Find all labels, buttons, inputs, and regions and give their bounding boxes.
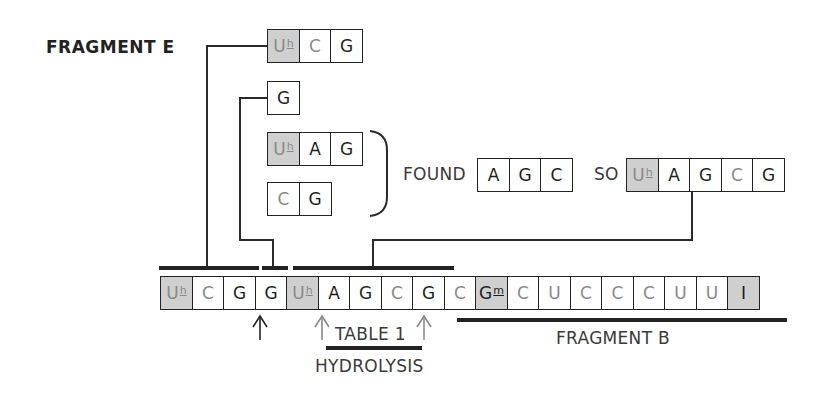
nucleotide-modification: h (287, 37, 294, 50)
nucleotide-cell: A (477, 158, 510, 192)
main-sequence: UhCGGUhAGCGCGmCUCCCUUI (160, 276, 760, 310)
fragment-e-sequence: UhCG (267, 29, 363, 63)
nucleotide-cell: I (727, 276, 760, 310)
nucleotide-cell: G (267, 81, 300, 115)
connector-lines (0, 0, 836, 394)
nucleotide-cell: C (721, 158, 754, 192)
nucleotide-cell: U (538, 276, 571, 310)
table-1-bar (326, 346, 422, 350)
nucleotide-cell: A (299, 132, 332, 166)
nucleotide-cell: G (330, 132, 363, 166)
fragment-b-label: FRAGMENT B (556, 328, 670, 348)
nucleotide-base: G (518, 165, 531, 185)
nucleotide-modification: h (646, 166, 653, 179)
nucleotide-cell: Uh (267, 132, 300, 166)
found-label: FOUND (403, 164, 466, 184)
nucleotide-base: C (454, 283, 466, 303)
nucleotide-cell: C (192, 276, 225, 310)
nucleotide-cell: Uh (267, 29, 300, 63)
nucleotide-base: U (273, 139, 285, 159)
rna-sequence-diagram: FRAGMENT E UhCG G UhAG CG FOUND AGC SO U… (0, 0, 836, 394)
cg-fragment-sequence: CG (267, 182, 332, 216)
table-1-label: TABLE 1 (335, 324, 406, 344)
nucleotide-cell: G (412, 276, 445, 310)
nucleotide-base: U (632, 165, 644, 185)
hydrolysis-label: HYDROLYSIS (315, 356, 424, 376)
nucleotide-cell: C (299, 29, 332, 63)
nucleotide-base: A (668, 165, 680, 185)
nucleotide-cell: G (509, 158, 542, 192)
nucleotide-cell: G (299, 182, 332, 216)
nucleotide-cell: Uh (626, 158, 659, 192)
nucleotide-base: A (328, 283, 340, 303)
nucleotide-base: C (612, 283, 624, 303)
cleavage-arrow-left (315, 316, 329, 340)
nucleotide-base: U (674, 283, 686, 303)
nucleotide-base: A (309, 139, 321, 159)
nucleotide-base: U (292, 283, 304, 303)
nucleotide-base: G (762, 165, 775, 185)
uhag-fragment-sequence: UhAG (267, 132, 363, 166)
nucleotide-base: U (166, 283, 178, 303)
nucleotide-base: G (233, 283, 246, 303)
nucleotide-base: G (699, 165, 712, 185)
nucleotide-cell: C (444, 276, 477, 310)
nucleotide-cell: C (633, 276, 666, 310)
nucleotide-base: G (308, 189, 321, 209)
nucleotide-base: G (422, 283, 435, 303)
nucleotide-base: G (340, 139, 353, 159)
fragment-e-label: FRAGMENT E (46, 37, 175, 57)
nucleotide-cell: A (318, 276, 351, 310)
nucleotide-cell: G (255, 276, 288, 310)
nucleotide-cell: U (696, 276, 729, 310)
nucleotide-base: C (517, 283, 529, 303)
nucleotide-cell: G (349, 276, 382, 310)
nucleotide-base: G (264, 283, 277, 303)
nucleotide-base: G (277, 88, 290, 108)
nucleotide-modification: h (287, 140, 294, 153)
nucleotide-cell: C (570, 276, 603, 310)
fragment-e-bar (159, 266, 259, 270)
nucleotide-base: C (202, 283, 214, 303)
nucleotide-base: C (580, 283, 592, 303)
nucleotide-cell: C (381, 276, 414, 310)
nucleotide-cell: C (507, 276, 540, 310)
nucleotide-cell: G (689, 158, 722, 192)
nucleotide-cell: Uh (160, 276, 193, 310)
nucleotide-cell: C (540, 158, 573, 192)
g-bar (262, 266, 288, 270)
nucleotide-base: C (278, 189, 290, 209)
nucleotide-base: G (359, 283, 372, 303)
so-sequence: UhAGCG (626, 158, 785, 192)
so-label: SO (594, 164, 619, 184)
cleavage-arrow-black (253, 316, 267, 340)
nucleotide-cell: G (223, 276, 256, 310)
nucleotide-modification: m (493, 284, 504, 297)
bracket-icon (370, 131, 387, 216)
nucleotide-base: U (273, 36, 285, 56)
nucleotide-cell: C (267, 182, 300, 216)
nucleotide-base: C (309, 36, 321, 56)
nucleotide-cell: Uh (286, 276, 319, 310)
nucleotide-base: U (706, 283, 718, 303)
nucleotide-cell: A (658, 158, 691, 192)
nucleotide-cell: Gm (475, 276, 508, 310)
nucleotide-base: U (548, 283, 560, 303)
nucleotide-base: C (391, 283, 403, 303)
g-fragment-sequence: G (267, 81, 300, 115)
nucleotide-base: C (731, 165, 743, 185)
nucleotide-cell: G (752, 158, 785, 192)
nucleotide-base: A (488, 165, 500, 185)
so-bar (293, 266, 454, 270)
nucleotide-modification: h (180, 284, 187, 297)
cleavage-arrow-right (417, 316, 431, 340)
nucleotide-base: I (741, 283, 746, 303)
nucleotide-base: G (479, 283, 492, 303)
found-sequence: AGC (477, 158, 573, 192)
nucleotide-cell: C (601, 276, 634, 310)
nucleotide-base: C (643, 283, 655, 303)
fragment-b-bar (457, 318, 787, 322)
nucleotide-base: G (340, 36, 353, 56)
nucleotide-modification: h (306, 284, 313, 297)
nucleotide-cell: G (330, 29, 363, 63)
